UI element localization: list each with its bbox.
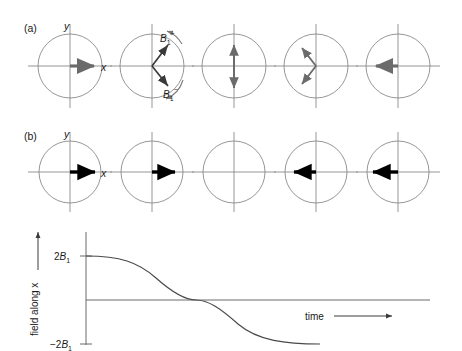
panel-a-frame-3 [192, 24, 276, 108]
panel-a: (a) x y B1+ [24, 20, 440, 108]
panel-b-x-label: x [100, 167, 107, 179]
vector-up-left [302, 48, 316, 66]
panel-a-label: (a) [24, 22, 37, 34]
y-axis-label: field along x [29, 283, 40, 336]
panel-a-x-label: x [100, 61, 107, 73]
vector-b1-minus [152, 66, 168, 86]
panel-b-y-label: y [63, 128, 70, 140]
panel-b-label: (b) [24, 130, 37, 142]
ytick-label-negative: −2B1 [50, 339, 72, 351]
x-axis-label: time [305, 311, 324, 322]
panel-a-frame-4 [274, 24, 358, 108]
panel-a-frame-1: x y [28, 20, 112, 108]
b1-plus-sup: + [171, 30, 175, 37]
panel-b-frame-2 [110, 132, 194, 212]
figure-root: (a) x y B1+ [0, 0, 462, 351]
panel-b-frame-1: x y [28, 128, 112, 212]
b1-minus-sub: 1 [170, 95, 174, 102]
panel-b-frame-3 [192, 132, 276, 212]
figure-svg: (a) x y B1+ [0, 0, 462, 351]
panel-a-y-label: y [63, 20, 70, 32]
ytick-label-positive: 2B1 [54, 251, 70, 264]
field-vs-time-plot: field along x 2B1 −2B1 time [29, 232, 430, 351]
panel-b-frame-4 [274, 132, 358, 212]
vector-down-left [302, 66, 316, 84]
svg-text:B1−: B1− [163, 86, 178, 102]
panel-a-frame-2: B1+ B1− [110, 24, 194, 108]
b1-plus-sub: 1 [167, 39, 171, 46]
label-b1-minus: B1− [163, 86, 178, 102]
panel-b: (b) x y [24, 128, 440, 212]
vector-b1-plus [152, 45, 168, 66]
b1-minus-sup: − [174, 86, 178, 93]
panel-b-frame-5 [356, 132, 440, 212]
panel-a-frame-5 [356, 24, 440, 108]
